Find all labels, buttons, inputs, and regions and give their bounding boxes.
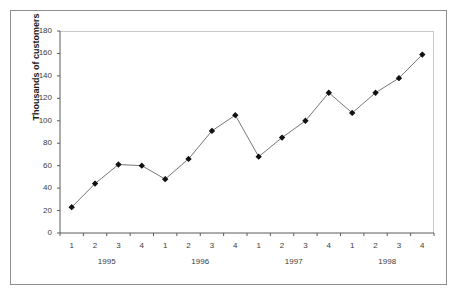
data-series-line [72,55,423,208]
line-chart-canvas [0,0,458,296]
data-point-marker [139,163,144,168]
chart-figure: .......... Thousands of customers 020406… [0,0,458,296]
data-point-markers [69,52,424,209]
data-point-marker [233,113,238,118]
axes-group [60,31,434,233]
